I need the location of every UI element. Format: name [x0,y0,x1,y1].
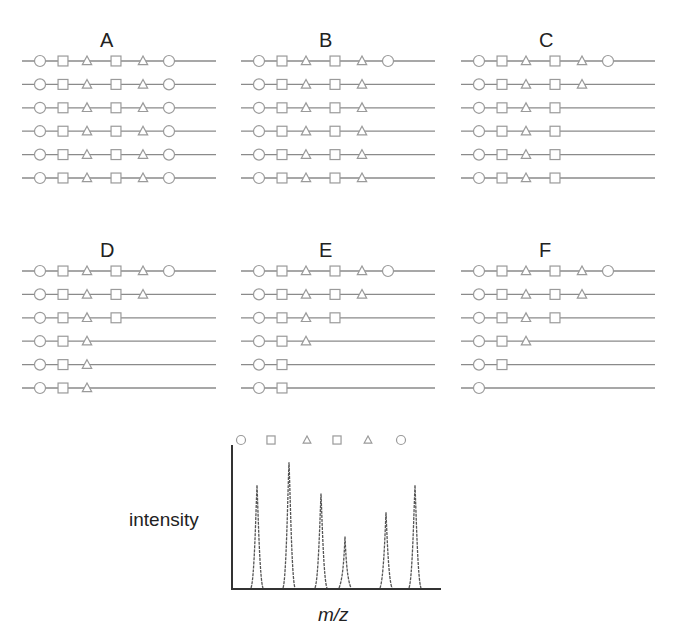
panel-label: E [319,239,332,261]
circle-marker-icon [35,173,46,184]
circle-marker-icon [35,126,46,137]
circle-marker-icon [35,383,46,394]
square-marker-icon [111,56,121,66]
panel-c: C [461,29,655,184]
square-marker-icon [550,289,560,299]
square-marker-icon [497,289,507,299]
spectrum-peak [339,537,351,588]
panel-f: F [461,239,655,394]
square-marker-icon [277,336,287,346]
panel-d: D [22,239,216,394]
square-marker-icon [550,79,560,89]
panel-label: D [100,239,114,261]
square-marker-icon [333,436,341,444]
ladder-row [241,102,435,113]
ladder-row [241,359,435,370]
ladder-row [22,126,216,137]
square-marker-icon [111,126,121,136]
square-marker-icon [58,266,68,276]
square-marker-icon [58,360,68,370]
circle-marker-icon [474,312,485,323]
panel-label: A [100,29,114,51]
square-marker-icon [277,103,287,113]
circle-marker-icon [474,336,485,347]
ladder-row [22,149,216,160]
square-marker-icon [330,289,340,299]
circle-marker-icon [35,149,46,160]
square-marker-icon [58,150,68,160]
ladder-row [461,359,655,370]
square-marker-icon [58,289,68,299]
circle-marker-icon [164,102,175,113]
ladder-row [22,173,216,184]
spectrum-peaks [251,462,421,588]
square-marker-icon [58,313,68,323]
square-marker-icon [277,289,287,299]
y-axis-label: intensity [129,509,199,530]
circle-marker-icon [254,312,265,323]
circle-marker-icon [474,383,485,394]
square-marker-icon [330,56,340,66]
ladder-row [461,79,655,90]
spectrum-peak [251,485,263,588]
circle-marker-icon [254,79,265,90]
circle-marker-icon [237,436,246,445]
ladder-row [461,102,655,113]
square-marker-icon [330,313,340,323]
circle-marker-icon [383,56,394,67]
ladder-row [241,149,435,160]
square-marker-icon [277,266,287,276]
circle-marker-icon [254,102,265,113]
square-marker-icon [497,150,507,160]
peptide-ladder-panels: ABCDEF [22,29,655,394]
circle-marker-icon [474,79,485,90]
square-marker-icon [277,360,287,370]
x-axis-label: m/z [318,604,349,625]
square-marker-icon [550,150,560,160]
ladder-row [22,336,216,347]
square-marker-icon [267,436,275,444]
square-marker-icon [497,126,507,136]
square-marker-icon [111,266,121,276]
ladder-row [22,56,216,67]
square-marker-icon [330,79,340,89]
square-marker-icon [497,266,507,276]
square-marker-icon [550,173,560,183]
figure-canvas: ABCDEF intensity m/z [0,0,673,643]
square-marker-icon [497,103,507,113]
ladder-row [461,289,655,300]
square-marker-icon [277,173,287,183]
square-marker-icon [58,383,68,393]
ladder-row [241,173,435,184]
panel-e: E [241,239,435,394]
ladder-row [461,56,655,67]
ladder-row [241,336,435,347]
panel-b: B [241,29,435,184]
panel-label: C [539,29,553,51]
ladder-row [241,79,435,90]
panel-label: F [539,239,551,261]
square-marker-icon [58,103,68,113]
square-marker-icon [277,313,287,323]
square-marker-icon [277,56,287,66]
circle-marker-icon [35,289,46,300]
circle-marker-icon [164,173,175,184]
circle-marker-icon [603,56,614,67]
circle-marker-icon [164,126,175,137]
circle-marker-icon [35,266,46,277]
ladder-row [241,56,435,67]
ladder-row [22,359,216,370]
circle-marker-icon [164,149,175,160]
ladder-row [461,312,655,323]
circle-marker-icon [383,266,394,277]
ladder-row [22,289,216,300]
circle-marker-icon [474,289,485,300]
mass-spectrum: intensity m/z [129,436,441,626]
square-marker-icon [58,336,68,346]
square-marker-icon [550,266,560,276]
ladder-row [22,312,216,323]
circle-marker-icon [35,336,46,347]
triangle-marker-icon [364,436,372,443]
ladder-row [461,173,655,184]
circle-marker-icon [254,173,265,184]
